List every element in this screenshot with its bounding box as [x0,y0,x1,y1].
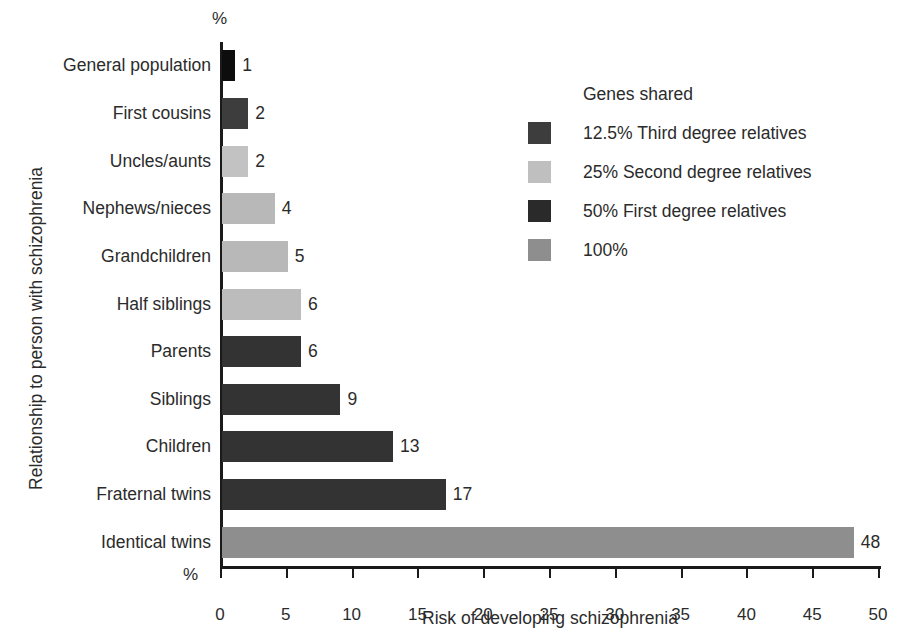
x-axis-tick [812,569,814,578]
x-axis-tick [681,569,683,578]
bar-value-label: 48 [854,527,880,558]
category-label: Siblings [0,384,220,415]
legend-swatch [528,200,551,222]
category-label: Parents [0,336,220,367]
bar: 5 [222,241,288,272]
x-axis-tick-label: 40 [726,605,766,625]
x-axis-tick-label: 35 [661,605,701,625]
legend-swatch [528,122,551,144]
bar-value-label: 4 [275,193,292,224]
y-axis-unit-label: % [212,9,227,29]
x-axis-tick [417,569,419,578]
bar: 48 [222,527,854,558]
bar: 17 [222,479,446,510]
x-axis-tick [549,569,551,578]
x-axis-tick [352,569,354,578]
x-axis-tick-label: 10 [332,605,372,625]
x-axis-tick-label: 5 [266,605,306,625]
category-label: Children [0,431,220,462]
category-label: Identical twins [0,527,220,558]
bar-value-label: 2 [248,146,265,177]
legend-label: 50% First degree relatives [583,196,786,226]
bar-value-label: 6 [301,336,318,367]
legend-swatch [528,161,551,183]
bar-value-label: 2 [248,98,265,129]
bar-value-label: 13 [393,431,419,462]
bar: 2 [222,146,248,177]
category-label: Nephews/nieces [0,193,220,224]
legend-title: Genes shared [583,84,693,105]
legend-label: 100% [583,235,628,265]
bar: 6 [222,336,301,367]
bar: 6 [222,289,301,320]
bar: 13 [222,431,393,462]
legend-label: 12.5% Third degree relatives [583,118,806,148]
bar-value-label: 5 [288,241,305,272]
x-axis-tick [286,569,288,578]
x-axis-tick [878,569,880,578]
x-axis-tick-label: 45 [792,605,832,625]
x-axis-tick-label: 50 [858,605,898,625]
bar: 2 [222,98,248,129]
x-axis-tick [746,569,748,578]
category-label: Uncles/aunts [0,146,220,177]
x-axis-tick-label: 0 [200,605,240,625]
bar: 9 [222,384,340,415]
legend-label: 25% Second degree relatives [583,157,812,187]
category-label: First cousins [0,98,220,129]
bar: 4 [222,193,275,224]
x-axis-tick-label: 25 [529,605,569,625]
bar-value-label: 17 [446,479,472,510]
category-label: General population [0,50,220,81]
bar-value-label: 1 [235,50,252,81]
x-axis-tick-label: 15 [397,605,437,625]
chart-figure: Relationship to person with schizophreni… [0,0,899,641]
x-axis-tick-label: 30 [595,605,635,625]
x-axis-tick-label: 20 [463,605,503,625]
bar-value-label: 6 [301,289,318,320]
bar: 1 [222,50,235,81]
category-label: Half siblings [0,289,220,320]
x-axis-tick [483,569,485,578]
category-label: Fraternal twins [0,479,220,510]
x-axis-unit-label: % [183,565,198,585]
x-axis-tick [615,569,617,578]
x-axis-tick [220,569,222,578]
legend-swatch [528,239,551,261]
category-label: Grandchildren [0,241,220,272]
bar-value-label: 9 [340,384,357,415]
